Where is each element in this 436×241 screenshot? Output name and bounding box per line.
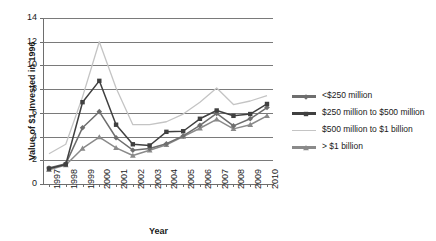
y-tick-label: 12 [7,37,37,46]
y-tick-label: 4 [7,132,37,141]
legend-item[interactable]: > $1 billion [292,139,436,156]
y-tick-label: 6 [7,108,37,117]
x-tick-mark [166,184,167,187]
y-tick-label: 2 [7,155,37,164]
x-tick-label: 1997 [53,169,62,189]
line-chart: Value of $1 Invested in 1996 02468101214… [0,0,436,241]
x-tick-mark [250,184,251,187]
x-tick-mark [116,184,117,187]
legend-label: $250 million to $500 million [322,106,425,119]
series-4 [46,113,270,172]
x-tick-label: 2002 [137,169,146,189]
y-tick-label: 14 [7,13,37,22]
legend-line-swatch [292,130,316,132]
legend-marker-triangle-icon [301,143,311,153]
legend-label: <$250 million [322,89,372,102]
y-tick-label: 0 [7,179,37,188]
legend-marker-square-icon [301,109,311,119]
x-tick-label: 2008 [237,169,246,189]
x-tick-mark [133,184,134,187]
x-tick-mark [267,184,268,187]
y-tick-mark [40,184,43,185]
x-tick-mark [49,184,50,187]
x-tick-mark [83,184,84,187]
legend-item[interactable]: $250 million to $500 million [292,105,436,122]
x-axis-title: Year [43,226,274,236]
x-tick-label: 2001 [120,169,129,189]
x-tick-label: 2006 [204,169,213,189]
y-tick-label: 8 [7,84,37,93]
legend-label: > $1 billion [322,140,363,153]
x-tick-mark [150,184,151,187]
x-tick-label: 2004 [170,169,179,189]
x-tick-mark [99,184,100,187]
chart-legend: <$250 million$250 million to $500 millio… [292,88,436,156]
x-tick-label: 2005 [187,169,196,189]
x-tick-mark [66,184,67,187]
legend-item[interactable]: $500 million to $1 billion [292,122,436,139]
x-tick-label: 2009 [254,169,263,189]
series-3 [49,42,267,154]
x-tick-label: 1998 [70,169,79,189]
legend-label: $500 million to $1 billion [322,123,413,136]
x-tick-mark [217,184,218,187]
x-tick-label: 2010 [271,169,280,189]
x-tick-label: 2007 [221,169,230,189]
x-tick-mark [183,184,184,187]
legend-item[interactable]: <$250 million [292,88,436,105]
series-lines [43,18,273,184]
x-tick-mark [200,184,201,187]
x-tick-label: 2003 [154,169,163,189]
x-tick-label: 2000 [103,169,112,189]
x-tick-mark [233,184,234,187]
x-tick-label: 1999 [87,169,96,189]
legend-marker-diamond-icon [301,92,311,102]
plot-area [43,18,273,184]
y-tick-label: 10 [7,60,37,69]
